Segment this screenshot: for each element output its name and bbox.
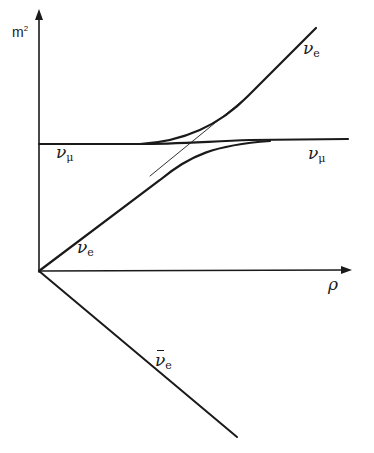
nu-mu-level: [39, 139, 348, 144]
anti-nu-symbol: ν: [155, 352, 165, 369]
upper-eigenstate-curve: [140, 28, 316, 144]
x-axis-arrow-icon: [341, 266, 352, 274]
label-nu-e-bottom: νe: [77, 239, 94, 258]
x-axis: [39, 270, 344, 271]
y-axis-arrow-icon: [35, 9, 43, 20]
flavor-subscript: μ: [318, 152, 325, 165]
flavor-subscript: μ: [66, 151, 73, 164]
nu-symbol: ν: [303, 38, 313, 58]
lower-eigenstate-curve: [39, 141, 270, 271]
nu-e-unperturbed-line: [150, 96, 248, 176]
flavor-subscript: e: [165, 359, 172, 372]
flavor-subscript: e: [87, 246, 94, 259]
y-axis-label-exp: 2: [24, 24, 28, 33]
label-nu-mu-left: νμ: [56, 144, 74, 163]
y-axis-label-base: m: [12, 24, 24, 40]
flavor-subscript: e: [313, 47, 320, 60]
nu-symbol: ν: [77, 237, 87, 257]
nu-symbol: ν: [308, 143, 318, 163]
diagram-canvas: [0, 0, 374, 453]
label-nu-mu-right: νμ: [308, 145, 326, 164]
x-axis-label: ρ: [328, 276, 338, 293]
label-anti-nu-e: νe: [155, 352, 172, 371]
anti-nu-e-line: [39, 271, 237, 437]
nu-symbol: ν: [56, 142, 66, 162]
y-axis-label: m2: [12, 24, 28, 40]
label-nu-e-top: νe: [303, 40, 320, 59]
x-axis-label-text: ρ: [328, 274, 338, 294]
